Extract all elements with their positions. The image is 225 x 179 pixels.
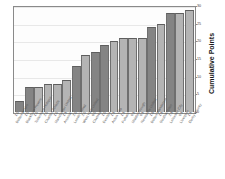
bar xyxy=(119,38,128,112)
bar xyxy=(175,13,184,112)
bar-series xyxy=(15,8,194,112)
x-axis-label-cell: Chelsea xyxy=(90,122,100,177)
x-axis-label-cell: Liverpool xyxy=(177,122,187,177)
y-axis-title-label: Cumulative Points xyxy=(209,32,216,93)
bar xyxy=(100,45,109,112)
x-axis-label-cell: Middlesbrough xyxy=(129,122,139,177)
y-axis-tick-mark xyxy=(195,77,197,78)
y-axis-tick-label: 5 xyxy=(197,92,199,96)
x-axis-label-cell: Aston Villa xyxy=(109,122,119,177)
y-axis-tick-label: 20 xyxy=(197,39,201,43)
x-axis-label-cell: Bolton Wndrs xyxy=(13,122,23,177)
y-axis-tick-label: 15 xyxy=(197,57,201,61)
y-axis-tick-mark xyxy=(195,24,197,25)
x-axis-label-cell: Arsenal xyxy=(61,122,71,177)
y-axis-tick-mark xyxy=(195,94,197,95)
bar xyxy=(110,41,119,112)
y-axis-tick-mark xyxy=(195,41,197,42)
x-axis-label-cell: Bolton Wanderers xyxy=(148,122,158,177)
y-axis-tick-label: 25 xyxy=(197,22,201,26)
y-axis-tick-mark xyxy=(195,59,197,60)
bar xyxy=(185,10,194,112)
y-axis-tick-mark xyxy=(195,6,197,7)
x-axis-label-cell: Newcastle United xyxy=(138,122,148,177)
bar xyxy=(166,13,175,112)
y-axis-title: Cumulative Points xyxy=(205,20,219,106)
x-axis-label-cell: Leeds United xyxy=(71,122,81,177)
bar xyxy=(72,66,81,112)
bar xyxy=(128,38,137,112)
x-axis-category-labels: Bolton WndrsBlackburn RoversTottenham Ho… xyxy=(13,122,196,177)
cumulative-points-bar-chart: 051015202530 Cumulative Points 1.01.01.0… xyxy=(0,0,225,179)
x-axis-label-cell: Manchester United xyxy=(52,122,62,177)
x-axis-label-cell: Southampton xyxy=(157,122,167,177)
x-axis-label-cell: Derby County xyxy=(186,122,196,177)
x-axis-label-cell: Charlton Athletic xyxy=(42,122,52,177)
y-axis-tick-label: 30 xyxy=(197,4,201,8)
x-axis-label-cell: Leicester City xyxy=(167,122,177,177)
x-axis-label-cell: Tottenham Hotspur xyxy=(32,122,42,177)
x-axis-label-cell: Fulham xyxy=(119,122,129,177)
x-axis-label-cell: West Ham United xyxy=(80,122,90,177)
x-axis-label-cell: Blackburn Rovers xyxy=(23,122,33,177)
y-axis-tick-label: 10 xyxy=(197,75,201,79)
x-axis-label-cell: Everton xyxy=(100,122,110,177)
